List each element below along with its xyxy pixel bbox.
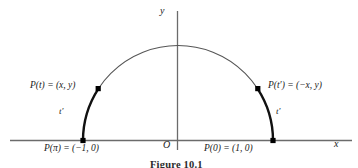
marker-endpoint-left: [80, 138, 85, 143]
marker-point-left: [96, 86, 101, 91]
figure-container: y x O P(t) = (x, y) P(t′) = (−x, y) t′ t…: [0, 0, 358, 168]
semicircle-diagram: [0, 0, 358, 168]
bold-arc-right: [258, 89, 273, 141]
marker-point-right: [255, 86, 260, 91]
bold-arc-left: [83, 89, 98, 141]
marker-endpoint-right: [270, 138, 275, 143]
